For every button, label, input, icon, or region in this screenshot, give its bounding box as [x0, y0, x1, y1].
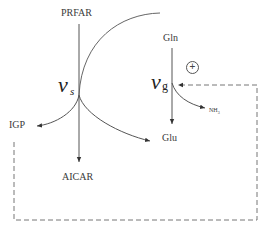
node-glu: Glu	[162, 133, 177, 143]
node-gln: Gln	[163, 33, 178, 43]
node-igp: IGP	[9, 120, 25, 130]
rate-vg-subscript: g	[162, 80, 168, 92]
rate-vs-symbol: v	[58, 74, 68, 96]
node-aicar: AICAR	[62, 172, 93, 182]
diagram-arrows	[0, 0, 264, 229]
rate-vs-subscript: s	[70, 86, 74, 97]
node-prfar: PRFAR	[61, 8, 92, 18]
gln-to-vs-curve	[79, 13, 160, 95]
node-nh3: NH3	[209, 107, 220, 116]
vg-to-nh3-arrow	[172, 83, 205, 108]
vs-to-igp-arrow	[37, 95, 79, 126]
rate-vg-symbol: v	[151, 71, 161, 93]
pathway-diagram: PRFAR Gln IGP AICAR Glu NH3 v s v g +	[0, 0, 264, 229]
positive-regulation-icon: +	[186, 61, 199, 74]
igp-feedback-dashed-arrow	[14, 85, 257, 220]
vs-to-glu-arrow	[79, 95, 150, 141]
